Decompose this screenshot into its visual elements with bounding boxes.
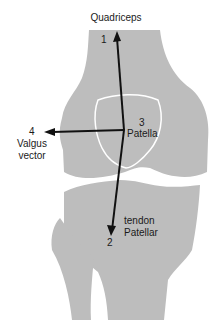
number-3: 3 bbox=[139, 117, 145, 128]
patella-label: Patella bbox=[127, 128, 158, 139]
knee-diagram bbox=[0, 0, 217, 332]
femur-shape bbox=[60, 30, 209, 178]
arrowhead-left-icon bbox=[44, 128, 55, 136]
number-2: 2 bbox=[107, 237, 113, 248]
number-4: 4 bbox=[29, 126, 35, 137]
tendon-label-line1: tendon bbox=[124, 215, 155, 226]
valgus-label-line2: vector bbox=[14, 150, 50, 161]
number-1: 1 bbox=[101, 34, 107, 45]
tendon-label-line2: Patellar bbox=[124, 227, 158, 238]
quadriceps-label: Quadriceps bbox=[80, 12, 152, 23]
valgus-label-line1: Valgus bbox=[14, 138, 50, 149]
